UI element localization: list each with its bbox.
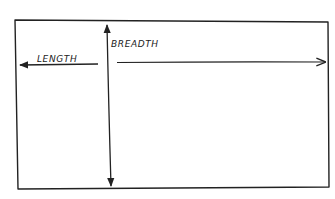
length-arrow [20, 64, 98, 65]
breadth-vertical-arrow [107, 25, 111, 186]
length-label: LENGTH [37, 54, 77, 64]
rectangle-outline [15, 20, 329, 189]
breadth-horizontal-arrow [117, 62, 325, 63]
breadth-label: BREADTH [111, 39, 159, 49]
length-breadth-diagram: LENGTH BREADTH [0, 0, 335, 199]
